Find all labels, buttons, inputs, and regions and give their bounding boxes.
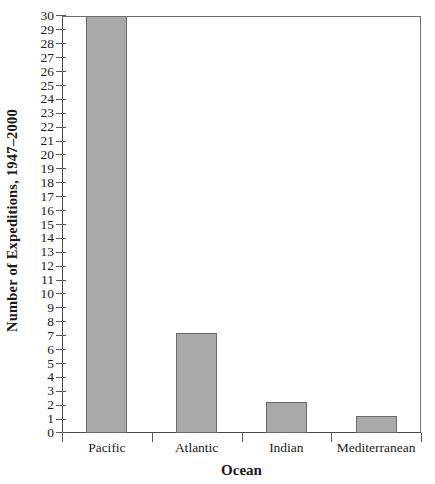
y-axis-tick-label: 27 [16,51,54,65]
y-axis-tick [56,280,66,281]
y-axis-tick [56,210,66,211]
x-axis-tick [331,433,332,442]
y-axis-tick-label: 11 [16,273,54,287]
y-axis-tick-label: 20 [16,148,54,162]
y-axis-tick [56,252,66,253]
y-axis-tick-label: 2 [16,398,54,412]
x-axis-tick-label: Pacific [88,441,125,456]
bars-layer [62,16,421,433]
y-axis-tick [56,85,66,86]
y-axis-tick-label: 16 [16,204,54,218]
y-axis-tick-label: 4 [16,370,54,384]
y-axis-tick [56,154,66,155]
y-axis-tick [56,57,66,58]
bar-indian [266,402,307,433]
y-axis-tick-label: 0 [16,426,54,440]
y-axis-tick-label: 3 [16,384,54,398]
bar-atlantic [176,333,217,433]
x-axis-tick-label: Atlantic [175,441,219,456]
y-axis-tick [56,321,66,322]
y-axis-tick [56,266,66,267]
bar-mediterranean [356,416,397,433]
bar-pacific [86,16,127,433]
y-axis-tick [56,349,66,350]
y-axis-tick [56,196,66,197]
y-axis-tick-label: 1 [16,412,54,426]
y-axis-tick-label: 25 [16,79,54,93]
y-axis-tick-label: 8 [16,315,54,329]
x-axis-tick [152,433,153,442]
x-axis-tick [242,433,243,442]
y-axis-tick [56,29,66,30]
bar-chart: Number of Expeditions, 1947–2000 0123456… [0,0,435,484]
y-axis-tick [56,405,66,406]
x-axis-tick [62,433,63,442]
y-axis-tick-label: 18 [16,176,54,190]
y-axis-tick-label: 6 [16,343,54,357]
y-axis-tick-label: 24 [16,92,54,106]
y-axis-tick [56,224,66,225]
y-axis-tick [56,391,66,392]
y-axis-tick [56,432,66,433]
y-axis-tick [56,113,66,114]
y-axis-ticks: 0123456789101112131415161718192021222324… [0,0,54,484]
x-axis-tick-label: Mediterranean [337,441,416,456]
y-axis-tick-label: 22 [16,120,54,134]
y-axis-tick [56,15,66,16]
y-axis-tick-label: 7 [16,329,54,343]
y-axis-tick-label: 10 [16,287,54,301]
y-axis-tick-label: 26 [16,65,54,79]
y-axis-tick-label: 9 [16,301,54,315]
y-axis-tick-label: 14 [16,231,54,245]
y-axis-tick-label: 29 [16,23,54,37]
y-axis-tick [56,99,66,100]
y-axis-tick [56,141,66,142]
y-axis-tick-label: 17 [16,190,54,204]
y-axis-tick-label: 12 [16,259,54,273]
y-axis-tick [56,377,66,378]
y-axis-tick-label: 21 [16,134,54,148]
y-axis-tick [56,419,66,420]
x-axis-title: Ocean [62,462,421,479]
y-axis-tick-label: 15 [16,218,54,232]
y-axis-tick [56,238,66,239]
y-axis-tick [56,71,66,72]
y-axis-tick [56,127,66,128]
x-axis-tick-label: Indian [269,441,304,456]
y-axis-tick [56,168,66,169]
y-axis-tick-label: 23 [16,106,54,120]
y-axis-tick-label: 13 [16,245,54,259]
x-axis-tick [421,433,422,442]
y-axis-tick [56,43,66,44]
y-axis-tick [56,293,66,294]
y-axis-tick [56,307,66,308]
y-axis-tick-label: 19 [16,162,54,176]
y-axis-tick-label: 30 [16,9,54,23]
y-axis-tick [56,363,66,364]
y-axis-tick [56,182,66,183]
y-axis-tick-label: 5 [16,357,54,371]
y-axis-tick [56,335,66,336]
y-axis-tick-label: 28 [16,37,54,51]
